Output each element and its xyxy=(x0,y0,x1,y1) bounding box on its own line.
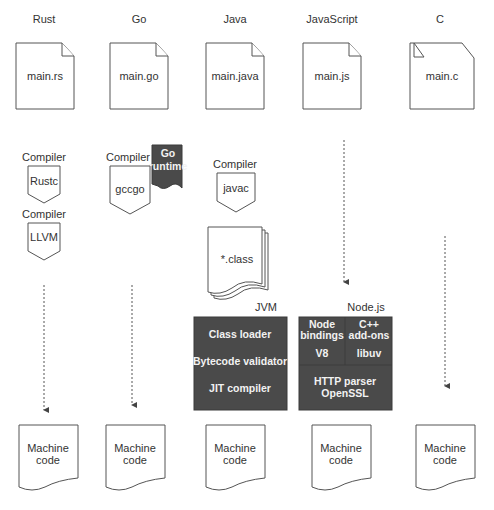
jvm-component-jit-compiler: JIT compiler xyxy=(209,382,271,394)
output-label: Machine xyxy=(214,442,256,454)
source-file-name: main.go xyxy=(119,70,158,82)
column-header-javascript: JavaScript xyxy=(306,13,357,25)
output-machine-code-java: Machine code xyxy=(206,425,265,490)
compiler-name: javac xyxy=(222,182,249,194)
output-label: Machine xyxy=(114,442,156,454)
compilation-diagram: Rust Go Java JavaScript C main.rs main.g… xyxy=(0,0,494,510)
compiler-name: Rustc xyxy=(30,175,59,187)
column-header-rust: Rust xyxy=(33,13,56,25)
node-component-http-openssl: OpenSSL xyxy=(321,387,369,399)
jvm-box: Class loader Bytecode validator JIT comp… xyxy=(193,317,287,410)
source-file-javascript: main.js xyxy=(303,43,361,109)
output-label: code xyxy=(329,454,353,466)
compiler-caption: Compiler xyxy=(22,151,66,163)
output-label: Machine xyxy=(424,442,466,454)
output-machine-code-rust: Machine code xyxy=(19,425,78,490)
column-header-java: Java xyxy=(223,13,247,25)
output-label: Machine xyxy=(320,442,362,454)
output-machine-code-javascript: Machine code xyxy=(312,425,371,490)
go-runtime-box: Go runtime xyxy=(149,145,188,189)
runtime-label: runtime xyxy=(149,160,188,172)
node-component-node-bindings: bindings xyxy=(300,329,344,341)
jvm-component-bytecode-validator: Bytecode validator xyxy=(193,355,287,367)
source-file-java: main.java xyxy=(206,43,264,109)
compiler-name: gccgo xyxy=(115,183,144,195)
output-label: code xyxy=(36,454,60,466)
nodejs-box: Node bindings C++ add-ons V8 libuv HTTP … xyxy=(299,317,392,410)
node-component-http-openssl: HTTP parser xyxy=(314,375,376,387)
source-file-c: main.c xyxy=(410,43,474,109)
output-machine-code-c: Machine code xyxy=(416,425,475,490)
compiler-javac: javac xyxy=(217,173,255,212)
node-component-v8: V8 xyxy=(316,347,329,359)
jvm-component-class-loader: Class loader xyxy=(209,328,271,340)
node-component-cpp-addons: add-ons xyxy=(349,329,390,341)
vm-label-jvm: JVM xyxy=(255,301,277,313)
compiler-name: LLVM xyxy=(30,231,58,243)
source-file-name: main.c xyxy=(426,70,459,82)
node-component-libuv: libuv xyxy=(357,347,382,359)
source-file-name: main.js xyxy=(315,70,350,82)
class-files-stack: *.class xyxy=(208,227,268,299)
source-file-name: main.java xyxy=(211,70,259,82)
output-label: Machine xyxy=(27,442,69,454)
compiler-llvm: LLVM xyxy=(28,223,60,260)
compiler-caption: Compiler xyxy=(213,158,257,170)
column-header-go: Go xyxy=(132,13,147,25)
compiler-caption: Compiler xyxy=(106,151,150,163)
output-label: code xyxy=(123,454,147,466)
column-header-c: C xyxy=(436,13,444,25)
output-machine-code-go: Machine code xyxy=(106,425,165,490)
output-label: code xyxy=(433,454,457,466)
vm-label-nodejs: Node.js xyxy=(347,301,385,313)
compiler-gccgo: gccgo xyxy=(110,166,150,214)
compiler-rustc: Rustc xyxy=(28,166,60,203)
output-label: code xyxy=(223,454,247,466)
compiler-caption: Compiler xyxy=(22,208,66,220)
source-file-rust: main.rs xyxy=(16,43,74,109)
source-file-go: main.go xyxy=(110,43,168,109)
intermediate-label: *.class xyxy=(221,253,254,265)
runtime-label: Go xyxy=(161,147,176,159)
source-file-name: main.rs xyxy=(27,70,64,82)
